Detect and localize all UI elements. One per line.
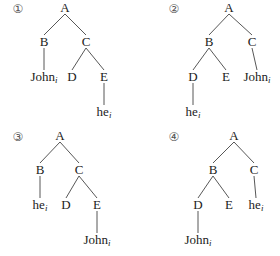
coindex-subscript: i [55, 75, 58, 85]
tree-edge-A-B [44, 14, 65, 35]
tree-leaf-john: Johni [243, 69, 271, 85]
coindex-subscript: i [198, 110, 201, 120]
coindex-subscript: i [108, 238, 111, 248]
tree-node-a: A [229, 128, 239, 143]
tree-node-c: C [82, 34, 91, 49]
tree-leaf-he: hei [249, 197, 264, 213]
tree-2: ②ABCDEJohnihei [169, 0, 271, 120]
tree-edge-B-D [193, 48, 209, 70]
tree-number-label: ③ [13, 130, 24, 144]
tree-node-a: A [60, 0, 70, 15]
tree-leaf-john: Johni [184, 232, 212, 248]
tree-node-b: B [205, 34, 214, 49]
tree-leaf-he: hei [97, 104, 112, 120]
tree-leaf-john: Johni [30, 69, 58, 85]
tree-node-d: D [193, 197, 202, 212]
tree-node-b: B [36, 162, 45, 177]
tree-edge-C-D [72, 48, 86, 70]
coindex-subscript: i [261, 203, 264, 213]
tree-number-label: ④ [169, 130, 180, 144]
tree-edge-C-E [79, 176, 97, 198]
tree-node-a: A [224, 0, 234, 15]
tree-edge-B-D [198, 176, 213, 198]
coindex-subscript: i [209, 238, 212, 248]
tree-node-b: B [209, 162, 218, 177]
tree-node-e: E [100, 69, 108, 84]
tree-node-b: B [40, 34, 49, 49]
tree-node-c: C [75, 162, 84, 177]
tree-number-label: ① [13, 2, 24, 16]
tree-node-d: D [61, 197, 70, 212]
tree-edge-C-E [86, 48, 104, 70]
coindex-subscript: i [268, 75, 271, 85]
tree-edge-B-E [213, 176, 229, 198]
tree-node-e: E [93, 197, 101, 212]
coindex-subscript: i [109, 110, 112, 120]
tree-node-e: E [225, 197, 233, 212]
tree-edge-A-C [234, 142, 254, 163]
tree-edge-A-B [213, 142, 234, 163]
tree-node-c: C [250, 162, 259, 177]
tree-edge-A-C [229, 14, 252, 35]
tree-edge-B-E [209, 48, 226, 70]
tree-diagrams: ①ABCDEJohnihei②ABCDEJohnihei③ABCDEheiJoh… [0, 0, 280, 256]
coindex-subscript: i [45, 203, 48, 213]
tree-3: ③ABCDEheiJohni [13, 128, 111, 248]
tree-edge-C-L1 [254, 176, 256, 198]
tree-edge-A-C [65, 14, 86, 35]
tree-node-e: E [222, 69, 230, 84]
tree-edge-A-B [40, 142, 60, 163]
tree-1: ①ABCDEJohnihei [13, 0, 112, 120]
tree-node-a: A [55, 128, 65, 143]
tree-edge-C-L1 [252, 48, 257, 70]
tree-4: ④ABCDEheiJohni [169, 128, 264, 248]
tree-node-d: D [188, 69, 197, 84]
tree-leaf-he: hei [186, 104, 201, 120]
tree-node-d: D [67, 69, 76, 84]
tree-leaf-he: hei [33, 197, 48, 213]
tree-edge-C-D [66, 176, 79, 198]
tree-edge-A-C [60, 142, 79, 163]
tree-edge-A-B [209, 14, 229, 35]
tree-number-label: ② [169, 2, 180, 16]
tree-node-c: C [248, 34, 257, 49]
tree-leaf-john: Johni [83, 232, 111, 248]
